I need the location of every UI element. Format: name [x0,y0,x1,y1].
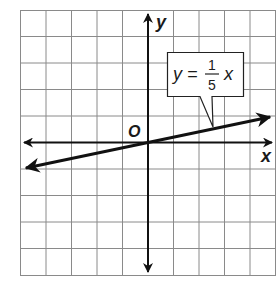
slope-denominator: 5 [208,77,216,93]
slope-numerator: 1 [208,57,216,73]
origin-label: O [128,123,141,140]
x-axis-label: x [260,146,272,166]
equation-variable: x [223,64,234,84]
equation-lhs: y = [171,64,198,84]
y-axis-label: y [155,12,167,32]
coordinate-graph: y x O y = 1 5 x [0,0,280,283]
